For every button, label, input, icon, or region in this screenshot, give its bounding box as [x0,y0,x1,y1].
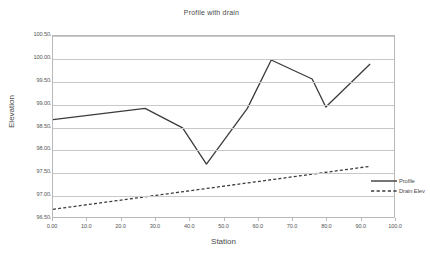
y-axis-tick-label: 97.00 [4,191,50,197]
gridline-horizontal [53,36,394,37]
x-axis-tick-label: 100.0 [375,223,415,229]
gridline-horizontal [53,128,394,129]
y-axis-tick-mark [48,35,51,36]
x-axis-title: Station [52,237,395,246]
y-axis-tick-label: 98.50 [4,123,50,129]
y-axis-tick-mark [48,218,51,219]
y-axis-tick-mark [48,127,51,128]
gridline-horizontal [53,173,394,174]
x-axis-tick-mark [395,218,396,221]
y-axis-tick-mark [48,172,51,173]
chart-title: Profile with drain [0,9,423,16]
plot-area: Profile Drain Elev [52,35,395,218]
y-axis-tick-mark [48,81,51,82]
y-axis-tick-label: 96.50 [4,214,50,220]
legend-line-dashed-icon [371,187,397,195]
y-axis-tick-layer: 96.5097.0097.5098.0098.5099.0099.50100.0… [0,35,50,218]
gridline-horizontal [53,82,394,83]
y-axis-tick-mark [48,195,51,196]
legend-item-drain-elev[interactable]: Drain Elev [371,186,430,196]
y-axis-tick-mark [48,58,51,59]
x-axis-tick-mark [258,218,259,221]
x-axis-tick-mark [292,218,293,221]
y-axis-tick-mark [48,104,51,105]
gridline-horizontal [53,59,394,60]
y-axis-tick-mark [48,149,51,150]
x-axis-tick-mark [224,218,225,221]
y-axis-tick-label: 100.00 [4,54,50,60]
y-axis-tick-label: 97.50 [4,168,50,174]
series-line-profile [53,60,370,164]
gridline-horizontal [53,150,394,151]
legend-item-profile[interactable]: Profile [371,176,430,186]
legend-line-solid-icon [371,177,397,185]
x-axis-tick-mark [326,218,327,221]
x-axis-tick-mark [86,218,87,221]
x-axis-tick-mark [121,218,122,221]
plot-svg [53,36,394,217]
gridline-horizontal [53,196,394,197]
x-axis-tick-mark [155,218,156,221]
gridline-horizontal [53,105,394,106]
x-axis-tick-mark [189,218,190,221]
y-axis-tick-label: 98.00 [4,145,50,151]
y-axis-tick-label: 99.50 [4,77,50,83]
chart-legend: Profile Drain Elev [371,174,430,198]
y-axis-tick-label: 99.00 [4,100,50,106]
legend-label-drain-elev: Drain Elev [397,188,425,194]
y-axis-tick-label: 100.50 [4,31,50,37]
legend-label-profile: Profile [397,178,415,184]
x-axis-tick-layer: 0.0010.020.030.040.050.060.070.080.090.0… [52,218,395,236]
x-axis-tick-mark [361,218,362,221]
x-axis-tick-mark [52,218,53,221]
